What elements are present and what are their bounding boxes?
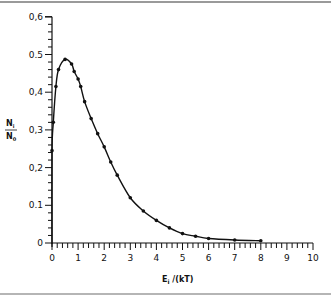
data-point	[168, 226, 172, 230]
x-tick-label: 10	[307, 253, 319, 263]
data-point	[109, 160, 113, 164]
x-tick-label: 1	[75, 253, 81, 263]
x-tick-label: 0	[49, 253, 55, 263]
data-point	[83, 100, 87, 104]
y-axis-ticks: 00.10,20,30,40.50,6	[29, 12, 52, 248]
data-point	[57, 68, 61, 72]
data-point	[50, 149, 54, 153]
data-point	[181, 232, 185, 236]
data-point	[102, 145, 106, 149]
data-point	[70, 62, 74, 66]
data-point	[142, 209, 146, 213]
data-point	[52, 121, 56, 125]
data-point	[89, 117, 93, 121]
x-tick-label: 9	[284, 253, 290, 263]
data-point	[54, 85, 58, 89]
data-point	[207, 237, 211, 241]
y-tick-label: 0,2	[29, 163, 43, 173]
axes	[45, 17, 313, 247]
data-point	[63, 58, 67, 62]
x-axis-ticks: 012345678910	[49, 243, 319, 263]
data-point	[233, 238, 237, 242]
y-tick-label: 0	[37, 238, 43, 248]
data-point	[259, 239, 263, 243]
y-tick-label: 0,4	[29, 87, 44, 97]
x-tick-label: 7	[232, 253, 238, 263]
data-point	[155, 219, 159, 223]
data-point	[129, 196, 133, 200]
data-point	[115, 173, 119, 177]
data-points	[50, 58, 262, 243]
y-tick-label: 0,6	[29, 12, 44, 22]
data-point	[79, 85, 83, 89]
data-point	[72, 70, 76, 74]
x-tick-label: 6	[206, 253, 212, 263]
data-point	[96, 132, 100, 136]
y-tick-label: 0.5	[29, 50, 43, 60]
data-point	[194, 234, 198, 238]
x-tick-label: 5	[180, 253, 186, 263]
chart: 012345678910 00.10,20,30,40.50,6 Ei /(kT…	[0, 0, 331, 297]
svg-text:Ni: Ni	[6, 119, 15, 129]
y-tick-label: 0.1	[29, 200, 43, 210]
y-axis-title: Ni N0	[5, 119, 17, 142]
y-tick-label: 0,3	[29, 125, 43, 135]
x-tick-label: 4	[154, 253, 160, 263]
x-axis-title: Ei /(kT)	[162, 275, 193, 285]
x-tick-label: 8	[258, 253, 264, 263]
data-point	[76, 77, 80, 81]
svg-text:N0: N0	[6, 132, 17, 142]
x-tick-label: 3	[127, 253, 133, 263]
data-curve	[52, 59, 261, 244]
x-tick-label: 2	[101, 253, 107, 263]
